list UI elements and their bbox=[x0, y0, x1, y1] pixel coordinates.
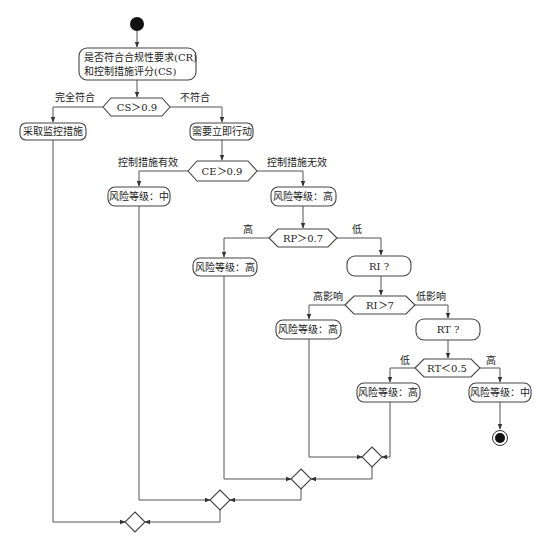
edge-cs-monitor bbox=[53, 107, 103, 122]
merge-node-3 bbox=[210, 490, 230, 510]
node-monitor-label: 采取监控措施 bbox=[23, 125, 83, 137]
node-risk-high-2: 风险等级：高 bbox=[193, 258, 257, 276]
node-risk-high-3-label: 风险等级：高 bbox=[278, 323, 338, 335]
label-rt-low: 低 bbox=[400, 354, 410, 366]
edge-riskhigh4-merge1 bbox=[382, 402, 390, 457]
label-cs-no: 不符合 bbox=[180, 91, 210, 103]
node-rt-query-label: RT ? bbox=[437, 324, 460, 335]
node-act-now: 需要立即行动 bbox=[190, 123, 253, 140]
node-act-now-label: 需要立即行动 bbox=[192, 125, 252, 137]
node-risk-high-2-label: 风险等级：高 bbox=[195, 261, 255, 273]
decision-ce-label: CE＞0.9 bbox=[202, 166, 243, 177]
end-node-icon bbox=[493, 431, 508, 446]
edge-merge2-merge3 bbox=[230, 489, 301, 500]
merge-node-1 bbox=[362, 447, 382, 467]
edge-rp-riskhigh2 bbox=[224, 238, 269, 257]
edge-ri-rtquery bbox=[415, 305, 448, 318]
label-rp-low: 低 bbox=[352, 223, 362, 235]
edge-ce-riskmid1 bbox=[139, 171, 188, 186]
edge-cs-actnow bbox=[170, 107, 222, 122]
decision-ri: RI＞7 bbox=[345, 296, 415, 314]
start-node-icon bbox=[130, 17, 144, 31]
node-risk-high-4: 风险等级：高 bbox=[357, 383, 420, 402]
decision-rt-label: RT＜0.5 bbox=[427, 363, 467, 374]
label-rt-high: 高 bbox=[486, 354, 496, 366]
edge-merge1-merge2 bbox=[311, 467, 372, 479]
node-risk-high-3: 风险等级：高 bbox=[276, 320, 341, 339]
edge-rp-riquery bbox=[337, 238, 381, 255]
edge-rt-riskhigh4 bbox=[390, 368, 415, 382]
edge-riskhigh2-merge2 bbox=[224, 276, 291, 479]
decision-rt: RT＜0.5 bbox=[415, 359, 480, 377]
node-ri-query: RI ? bbox=[347, 256, 411, 276]
node-risk-high-1-label: 风险等级：高 bbox=[273, 190, 333, 202]
node-risk-mid-2-label: 风险等级：中 bbox=[470, 386, 530, 398]
merge-node-4 bbox=[125, 512, 145, 532]
label-ce-no: 控制措施无效 bbox=[267, 156, 327, 168]
edge-rt-riskmid2 bbox=[480, 368, 500, 382]
node-monitor: 采取监控措施 bbox=[20, 123, 86, 140]
label-ri-high: 高影响 bbox=[313, 290, 343, 302]
label-ce-yes: 控制措施有效 bbox=[118, 156, 178, 168]
edge-merge3-merge4 bbox=[145, 510, 220, 522]
label-cs-yes: 完全符合 bbox=[55, 91, 95, 103]
node-ri-query-label: RI ? bbox=[369, 261, 389, 272]
node-risk-mid-1-label: 风险等级：中 bbox=[109, 190, 169, 202]
decision-cs: CS＞0.9 bbox=[103, 98, 170, 116]
node-risk-high-4-label: 风险等级：高 bbox=[358, 386, 418, 398]
label-rp-high: 高 bbox=[243, 223, 253, 235]
node-risk-high-1: 风险等级：高 bbox=[271, 187, 336, 206]
edge-riskmid1-merge3 bbox=[139, 206, 210, 500]
edge-ce-riskhigh1 bbox=[257, 171, 303, 186]
decision-cs-label: CS＞0.9 bbox=[117, 102, 157, 113]
edge-riskhigh3-merge1 bbox=[309, 339, 362, 457]
node-assess: 是否符合合规性要求(CR) 和控制措施评分(CS) bbox=[79, 48, 197, 80]
node-risk-mid-2: 风险等级：中 bbox=[469, 383, 531, 402]
decision-rp-label: RP＞0.7 bbox=[283, 233, 323, 244]
node-assess-line1: 是否符合合规性要求(CR) bbox=[84, 51, 197, 63]
node-assess-line2: 和控制措施评分(CS) bbox=[84, 65, 176, 77]
node-rt-query: RT ? bbox=[416, 319, 480, 340]
merge-node-2 bbox=[291, 469, 311, 489]
decision-rp: RP＞0.7 bbox=[269, 229, 337, 247]
edge-ri-riskhigh3 bbox=[309, 305, 345, 319]
node-risk-mid-1: 风险等级：中 bbox=[108, 187, 170, 206]
label-ri-low: 低影响 bbox=[416, 290, 446, 302]
decision-ce: CE＞0.9 bbox=[188, 161, 257, 181]
decision-ri-label: RI＞7 bbox=[366, 300, 394, 311]
